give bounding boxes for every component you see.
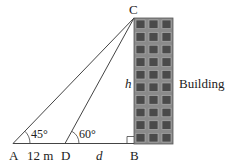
building-window [136,121,145,130]
building-window [136,70,145,79]
building-window [136,96,145,105]
building-window [136,108,145,117]
building-window [136,33,145,42]
building-window [162,33,171,42]
building-window [162,45,171,54]
right-angle-marker [127,137,134,144]
height-label-h: h [125,77,132,90]
building-window [136,20,145,29]
building-window [136,58,145,67]
building [134,18,173,144]
building-window [149,70,158,79]
point-label-B: B [130,149,139,162]
building-window [149,45,158,54]
angle-arc-D [72,131,79,143]
building-window [162,121,171,130]
sight-line-DC [65,18,134,144]
building-window [162,20,171,29]
building-label: Building [179,77,225,90]
length-label-AD: 12 m [27,149,53,162]
building-window [149,121,158,130]
angle-label-A: 45° [31,128,48,140]
point-label-C: C [129,3,138,16]
building-window [149,133,158,142]
building-window [162,96,171,105]
building-window [149,58,158,67]
building-window [136,83,145,92]
building-window [162,70,171,79]
building-window [149,108,158,117]
building-window [162,83,171,92]
angle-label-D: 60° [79,128,96,140]
building-window [162,133,171,142]
building-window [162,58,171,67]
building-window [149,96,158,105]
angle-arc-A [25,131,30,143]
building-window [162,108,171,117]
building-window [149,33,158,42]
point-label-D: D [61,149,70,162]
building-window [149,83,158,92]
building-window [149,20,158,29]
building-window [136,45,145,54]
length-label-d: d [96,149,103,162]
sight-line-AC [13,18,134,144]
building-window [136,133,145,142]
point-label-A: A [9,149,18,162]
